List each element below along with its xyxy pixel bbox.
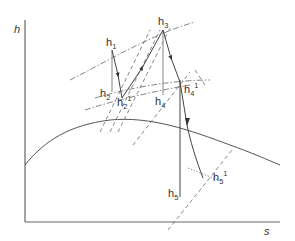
hs-diagram: h s h1 h2 h21 h3 h4 h41: [0, 0, 295, 241]
reheat-2-3: [122, 30, 163, 98]
saturation-curve: [25, 119, 280, 165]
label-h4-prime: h41: [184, 81, 198, 98]
label-h3: h3: [158, 15, 168, 30]
arrow-icon: [185, 118, 190, 126]
label-h2: h2: [100, 87, 110, 102]
label-h2-prime: h21: [117, 94, 131, 111]
label-h5: h5: [168, 187, 178, 202]
y-axis-label: h: [14, 23, 20, 35]
point-labels: h1 h2 h21 h3 h4 h41 h5 h51: [100, 15, 227, 202]
label-h5-prime: h51: [213, 169, 227, 186]
label-h4: h4: [155, 95, 165, 110]
auxiliary-dashed-lines: [100, 28, 232, 230]
x-axis-label: s: [264, 225, 270, 237]
label-h1: h1: [106, 36, 116, 51]
expansion-3-4: [163, 30, 180, 82]
expansion-1-2: [112, 50, 122, 98]
isobars: [70, 22, 210, 110]
axes: h s: [14, 20, 280, 237]
